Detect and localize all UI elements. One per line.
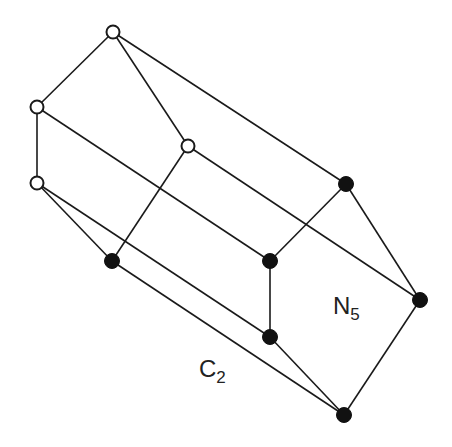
edge-f-j bbox=[112, 261, 344, 415]
edge-i-j bbox=[270, 337, 344, 415]
nodes-group bbox=[31, 26, 428, 423]
node-filled-i bbox=[263, 330, 278, 345]
node-filled-g bbox=[263, 254, 278, 269]
node-filled-e bbox=[339, 177, 354, 192]
edge-e-h bbox=[346, 184, 420, 300]
label-c2: C2 bbox=[199, 355, 226, 387]
edge-c-h bbox=[188, 146, 420, 300]
lattice-diagram: N5 C2 bbox=[0, 0, 452, 447]
node-open-b bbox=[31, 101, 44, 114]
edge-a-e bbox=[113, 32, 346, 184]
label-n5-main: N bbox=[333, 292, 350, 319]
node-open-a bbox=[107, 26, 120, 39]
label-n5-sub: 5 bbox=[350, 305, 359, 324]
node-open-d bbox=[31, 177, 44, 190]
edge-d-i bbox=[37, 183, 270, 337]
label-c2-sub: 2 bbox=[216, 368, 225, 387]
edges-group bbox=[37, 32, 420, 415]
edge-a-c bbox=[113, 32, 188, 146]
edge-e-g bbox=[270, 184, 346, 261]
node-filled-f bbox=[105, 254, 120, 269]
label-n5: N5 bbox=[333, 292, 360, 324]
label-c2-main: C bbox=[199, 355, 216, 382]
edge-b-g bbox=[37, 107, 270, 261]
node-open-c bbox=[182, 140, 195, 153]
edge-a-b bbox=[37, 32, 113, 107]
edge-d-f bbox=[37, 183, 112, 261]
node-filled-j bbox=[337, 408, 352, 423]
node-filled-h bbox=[413, 293, 428, 308]
